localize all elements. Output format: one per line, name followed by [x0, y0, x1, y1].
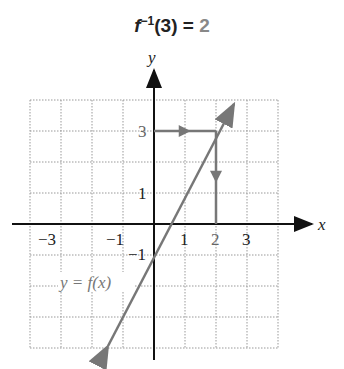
xtick-3: 3: [242, 230, 251, 249]
xtick-2: 2: [211, 230, 220, 249]
ytick-3: 3: [138, 122, 147, 141]
ytick-1: 1: [138, 184, 147, 203]
xtick-m1: −1: [106, 230, 124, 249]
inverse-path: [154, 127, 220, 224]
curve-label: y = f(x): [58, 273, 111, 292]
x-axis-label: x: [317, 215, 326, 234]
ytick-m1: −1: [128, 245, 146, 264]
chart-plot: x y −3 −1 1 2 3 3 1 −1 y = f(x): [0, 0, 344, 369]
xtick-m3: −3: [38, 230, 56, 249]
xtick-1: 1: [180, 230, 189, 249]
y-axis-label: y: [146, 48, 156, 67]
